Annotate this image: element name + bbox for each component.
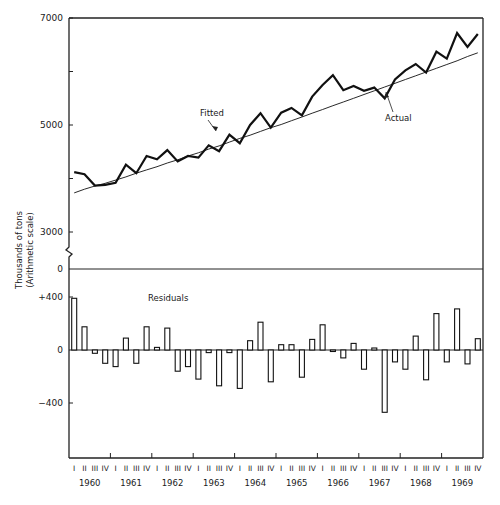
year-label: 1962 xyxy=(162,478,184,488)
residual-bar xyxy=(258,322,263,350)
residual-bars xyxy=(72,298,481,412)
quarter-label: IV xyxy=(433,464,441,473)
lower-y-axis: +400 0 −400 xyxy=(38,292,73,408)
quarter-label: III xyxy=(299,464,306,473)
year-label: 1968 xyxy=(410,478,432,488)
residual-bar xyxy=(217,350,222,386)
quarter-label: I xyxy=(114,464,116,473)
quarter-label: IV xyxy=(102,464,110,473)
y-tick-5000: 5000 xyxy=(40,120,63,130)
residual-bar xyxy=(341,350,346,358)
y-axis-title: Thousands of tons (Arithmetic scale) xyxy=(14,210,35,290)
residual-bar xyxy=(165,328,170,350)
quarter-label: I xyxy=(321,464,323,473)
year-label: 1969 xyxy=(451,478,473,488)
quarter-label: IV xyxy=(391,464,399,473)
upper-y-axis: 7000 5000 3000 0 xyxy=(40,13,73,274)
quarter-label: I xyxy=(446,464,448,473)
y-axis-title-line2: (Arithmetic scale) xyxy=(25,212,35,288)
quarter-label: III xyxy=(464,464,471,473)
residual-bar xyxy=(72,298,77,350)
quarter-label: III xyxy=(92,464,99,473)
residual-bar xyxy=(186,350,191,367)
residual-bar xyxy=(403,350,408,369)
year-label: 1963 xyxy=(203,478,225,488)
residual-bar xyxy=(320,325,325,350)
residual-bar xyxy=(455,309,460,350)
residual-bar xyxy=(227,350,232,353)
residual-bar xyxy=(372,348,377,350)
fitted-label: Fitted xyxy=(200,108,224,118)
y-tick-plus400: +400 xyxy=(38,292,63,302)
residual-bar xyxy=(134,350,139,363)
quarter-label: I xyxy=(280,464,282,473)
residual-bar xyxy=(465,350,470,364)
quarter-label: III xyxy=(257,464,264,473)
residual-bar xyxy=(444,350,449,362)
quarter-label: I xyxy=(404,464,406,473)
residual-bar xyxy=(424,350,429,380)
quarter-label: II xyxy=(331,464,335,473)
residual-bar xyxy=(268,350,273,382)
residual-bar xyxy=(434,314,439,350)
residual-bar xyxy=(299,350,304,377)
residual-bar xyxy=(175,350,180,371)
year-label: 1960 xyxy=(79,478,101,488)
residual-bar xyxy=(382,350,387,412)
residual-bar xyxy=(196,350,201,379)
y-tick-0-break: 0 xyxy=(57,264,63,274)
series-actual-line xyxy=(74,33,478,186)
quarter-label: IV xyxy=(267,464,275,473)
quarter-label: II xyxy=(372,464,376,473)
quarter-label: I xyxy=(197,464,199,473)
residual-bar xyxy=(289,345,294,350)
quarter-label: IV xyxy=(143,464,151,473)
quarter-label: I xyxy=(239,464,241,473)
residual-bar xyxy=(248,341,253,350)
residual-bar xyxy=(155,347,160,350)
quarter-label: II xyxy=(455,464,459,473)
plot-frame xyxy=(66,18,483,458)
chart-figure: 7000 5000 3000 0 +400 0 −400 Thousands o… xyxy=(0,0,500,505)
quarter-label: III xyxy=(174,464,181,473)
y-tick-minus400: −400 xyxy=(38,398,63,408)
quarter-label: II xyxy=(248,464,252,473)
y-axis-title-line1: Thousands of tons xyxy=(14,210,24,290)
residual-bar xyxy=(237,350,242,388)
residual-bar xyxy=(310,339,315,350)
chart-svg: 7000 5000 3000 0 +400 0 −400 Thousands o… xyxy=(0,0,500,505)
quarter-label: III xyxy=(423,464,430,473)
quarter-label: I xyxy=(156,464,158,473)
residual-bar xyxy=(92,350,97,353)
fitted-annotation: Fitted xyxy=(200,108,224,131)
quarter-label: II xyxy=(82,464,86,473)
quarter-label: IV xyxy=(474,464,482,473)
year-label: 1964 xyxy=(244,478,266,488)
year-label: 1966 xyxy=(327,478,349,488)
residual-bar xyxy=(351,343,356,350)
y-tick-7000: 7000 xyxy=(40,13,63,23)
residual-bar xyxy=(475,339,480,350)
residual-bar xyxy=(206,350,211,353)
quarter-label: IV xyxy=(226,464,234,473)
residual-bar xyxy=(330,350,335,352)
actual-label: Actual xyxy=(385,113,412,123)
quarter-label: IV xyxy=(184,464,192,473)
year-label: 1961 xyxy=(120,478,142,488)
quarter-label: III xyxy=(133,464,140,473)
quarter-label: III xyxy=(340,464,347,473)
residual-bar xyxy=(82,327,87,350)
residual-bar xyxy=(279,345,284,350)
quarter-label: II xyxy=(124,464,128,473)
actual-annotation: Actual xyxy=(384,92,412,123)
quarter-label: I xyxy=(73,464,75,473)
residual-bar xyxy=(393,350,398,362)
quarter-label: III xyxy=(216,464,223,473)
residual-bar xyxy=(413,336,418,350)
quarter-label: II xyxy=(206,464,210,473)
quarter-label: IV xyxy=(350,464,358,473)
quarter-label: II xyxy=(289,464,293,473)
y-tick-3000: 3000 xyxy=(40,227,63,237)
quarter-label: IV xyxy=(309,464,317,473)
quarter-label: III xyxy=(381,464,388,473)
